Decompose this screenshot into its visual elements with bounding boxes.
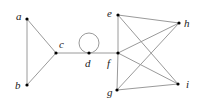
node-d xyxy=(87,51,90,54)
edge-g-i xyxy=(117,84,178,90)
graph-diagram: abcdefghi xyxy=(0,0,199,101)
edge-e-h xyxy=(118,15,179,23)
node-c xyxy=(54,51,57,54)
node-e xyxy=(116,13,119,16)
node-label-c: c xyxy=(59,38,64,50)
edge-e-i xyxy=(118,15,178,84)
node-label-b: b xyxy=(15,79,21,91)
node-label-f: f xyxy=(107,57,112,69)
node-a xyxy=(25,17,28,20)
edge-a-c xyxy=(27,19,56,53)
node-label-i: i xyxy=(186,78,189,90)
node-label-e: e xyxy=(107,7,112,19)
node-f xyxy=(116,51,119,54)
node-label-h: h xyxy=(184,17,190,29)
edge-f-g xyxy=(117,53,118,90)
node-label-a: a xyxy=(16,10,22,22)
loop-d xyxy=(79,33,99,53)
edge-f-h xyxy=(118,23,179,53)
node-h xyxy=(177,21,180,24)
loops-group xyxy=(79,33,99,53)
edge-b-c xyxy=(27,53,56,85)
node-label-g: g xyxy=(107,86,113,98)
node-label-d: d xyxy=(85,57,91,69)
node-b xyxy=(25,83,28,86)
node-g xyxy=(115,88,118,91)
node-i xyxy=(176,82,179,85)
edges-group xyxy=(27,15,179,90)
